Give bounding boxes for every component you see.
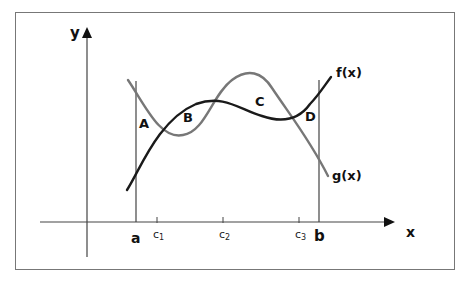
diagram-canvas bbox=[0, 0, 467, 283]
curve-f bbox=[127, 77, 331, 190]
x-axis-label: x bbox=[406, 225, 415, 239]
curve-label-f: f(x) bbox=[336, 66, 362, 79]
region-label-a: A bbox=[139, 117, 149, 130]
x-axis-arrow-icon bbox=[384, 217, 395, 227]
bound-label-b: b bbox=[314, 229, 325, 244]
y-axis-label: y bbox=[70, 26, 80, 41]
region-label-c: C bbox=[255, 95, 265, 108]
curve-g bbox=[128, 73, 328, 176]
region-label-d: D bbox=[305, 110, 316, 123]
bound-label-a: a bbox=[131, 231, 140, 245]
point-label-c1: c1 bbox=[153, 229, 164, 242]
curve-label-g: g(x) bbox=[332, 169, 362, 182]
point-label-c2: c2 bbox=[219, 229, 230, 242]
point-label-c3: c3 bbox=[295, 229, 306, 242]
region-label-b: B bbox=[183, 111, 193, 124]
y-axis-arrow-icon bbox=[82, 27, 92, 38]
